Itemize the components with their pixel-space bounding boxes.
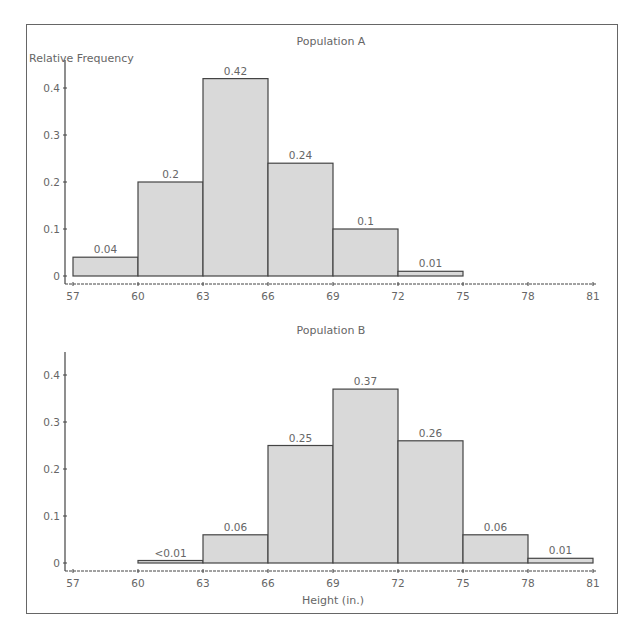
x-tick-label: 69 [326,577,339,589]
bar-value-label: 0.2 [162,168,179,180]
x-tick-label: 60 [131,290,144,302]
histogram-bar [268,446,333,564]
y-tick-label: 0.1 [43,510,60,522]
x-tick-label: 78 [521,577,534,589]
histogram-panel-a: Population ARelative Frequency00.10.20.3… [29,35,600,302]
chart-title: Population B [297,324,366,337]
bar-value-label: 0.04 [94,243,118,255]
y-tick-label: 0.1 [43,223,60,235]
y-tick-label: 0.2 [43,463,60,475]
x-tick-label: 75 [456,290,469,302]
histogram-bar [333,389,398,563]
x-tick-label: 81 [586,290,599,302]
x-tick-label: 69 [326,290,339,302]
y-axis-label: Relative Frequency [29,52,134,65]
y-tick-label: 0.3 [43,129,60,141]
histogram-bar [528,558,593,563]
chart-title: Population A [297,35,366,48]
y-tick-label: 0.3 [43,416,60,428]
histogram-bar [398,441,463,563]
x-tick-label: 66 [261,577,275,589]
bar-value-label: <0.01 [154,547,186,559]
x-tick-label: 63 [196,577,209,589]
histogram-panel-b: Population B00.10.20.30.4576063666972757… [43,324,599,607]
histogram-bar [333,229,398,276]
bar-value-label: 0.01 [419,257,442,269]
bar-value-label: 0.25 [289,432,312,444]
histogram-bar [203,535,268,563]
histogram-bar [398,271,463,276]
bar-value-label: 0.1 [357,215,374,227]
bar-value-label: 0.42 [224,65,247,77]
y-tick-label: 0 [53,270,60,282]
histogram-bar [463,535,528,563]
bar-value-label: 0.06 [224,521,248,533]
y-tick-label: 0.2 [43,176,60,188]
x-tick-label: 66 [261,290,275,302]
x-tick-label: 57 [66,577,79,589]
bar-value-label: 0.24 [289,149,313,161]
y-tick-label: 0 [53,557,60,569]
histogram-bar [268,163,333,276]
histogram-figure: Population ARelative Frequency00.10.20.3… [0,0,644,632]
bar-value-label: 0.06 [484,521,508,533]
x-tick-label: 81 [586,577,599,589]
x-tick-label: 57 [66,290,79,302]
histogram-bar [73,257,138,276]
bar-value-label: 0.01 [549,544,572,556]
x-tick-label: 72 [391,577,404,589]
x-tick-label: 75 [456,577,469,589]
histogram-bar [138,561,203,564]
y-tick-label: 0.4 [43,82,60,94]
y-tick-label: 0.4 [43,369,60,381]
histogram-bar [203,79,268,276]
x-axis-label: Height (in.) [302,594,364,607]
bar-value-label: 0.26 [419,427,443,439]
bar-value-label: 0.37 [354,375,377,387]
x-tick-label: 78 [521,290,534,302]
histogram-bar [138,182,203,276]
x-tick-label: 72 [391,290,404,302]
x-tick-label: 63 [196,290,209,302]
x-tick-label: 60 [131,577,144,589]
